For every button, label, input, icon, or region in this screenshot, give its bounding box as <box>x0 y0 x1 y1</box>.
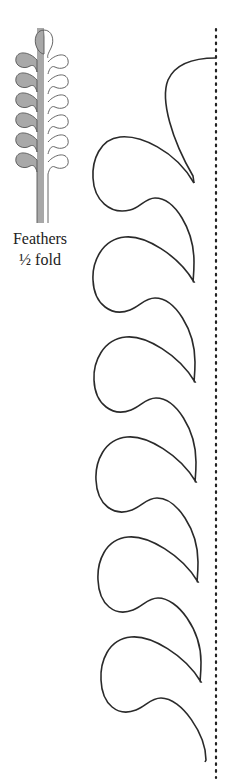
caption-subtitle: ½ fold <box>0 250 80 270</box>
feather-thumbnail-icon <box>16 28 69 223</box>
caption-title: Feathers <box>0 229 80 249</box>
feather-outlines <box>93 58 216 762</box>
feather-pattern <box>0 0 235 783</box>
